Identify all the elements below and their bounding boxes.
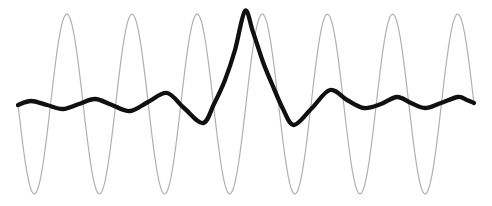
figure	[0, 0, 492, 206]
sine-wave-curve	[18, 14, 474, 194]
waveform-plot	[0, 0, 492, 206]
